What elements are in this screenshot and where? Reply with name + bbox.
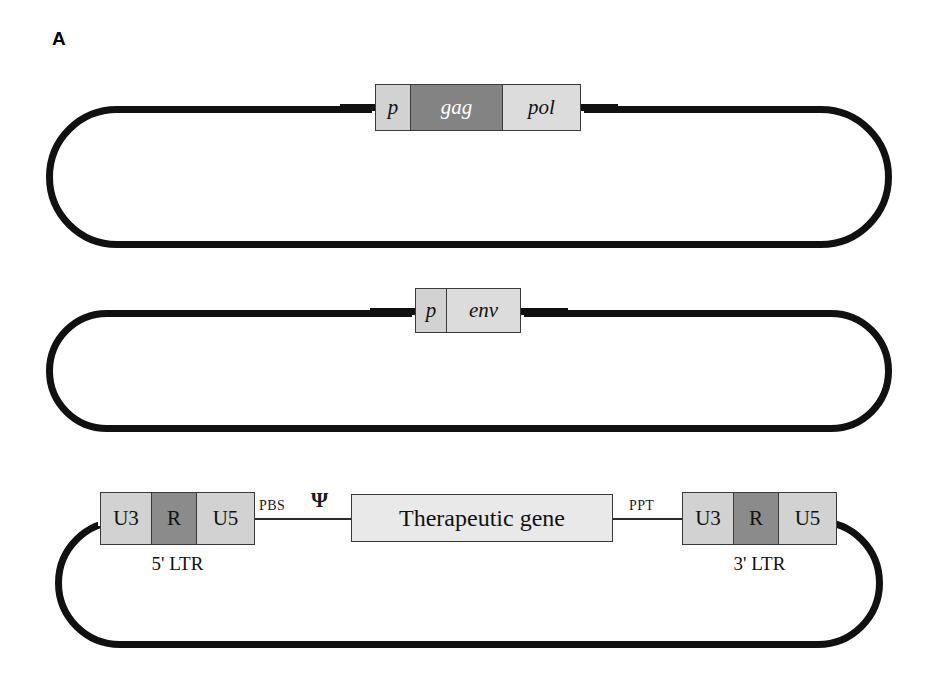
segment-therapeutic-gene: Therapeutic gene	[352, 495, 612, 541]
connector-ppt-region	[612, 518, 688, 520]
connector-right-env	[516, 308, 568, 315]
segment-r-three-prime: R	[733, 493, 778, 544]
connector-left-gagpol	[340, 104, 380, 111]
label-five-prime-ltr: 5' LTR	[100, 553, 255, 575]
segment-u3-five-prime: U3	[101, 493, 151, 544]
label-psi-packaging-signal: Ψ	[311, 487, 329, 513]
label-three-prime-ltr: 3' LTR	[682, 553, 837, 575]
label-pbs: PBS	[259, 498, 285, 514]
cassette-therapeutic-gene: Therapeutic gene	[351, 494, 613, 542]
connector-right-gagpol	[576, 104, 618, 111]
cassette-env: p env	[415, 288, 521, 333]
segment-u3-three-prime: U3	[683, 493, 733, 544]
panel-letter: A	[52, 28, 66, 50]
segment-pol: pol	[502, 85, 580, 130]
segment-u5-five-prime: U5	[196, 493, 254, 544]
label-ppt: PPT	[629, 498, 654, 514]
figure-panel-a: A p gag pol p env U3 R U5 5' LTR PBS Ψ T…	[0, 0, 938, 684]
segment-r-five-prime: R	[151, 493, 196, 544]
segment-env: env	[446, 289, 520, 332]
cassette-five-prime-ltr: U3 R U5	[100, 492, 255, 545]
segment-gag: gag	[410, 85, 502, 130]
cassette-three-prime-ltr: U3 R U5	[682, 492, 837, 545]
segment-promoter-env: p	[416, 289, 446, 332]
segment-promoter-gagpol: p	[376, 85, 410, 130]
cassette-gagpol: p gag pol	[375, 84, 581, 131]
segment-u5-three-prime: U5	[778, 493, 836, 544]
connector-left-env	[370, 308, 420, 315]
connector-pbs-psi-region	[250, 518, 360, 520]
